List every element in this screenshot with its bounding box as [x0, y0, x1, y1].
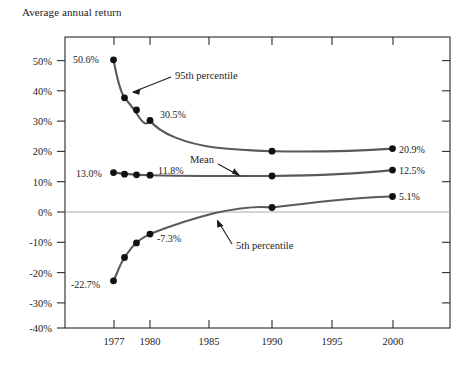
point-label-p5-start: -22.7% [71, 279, 100, 290]
y-axis-ticks-right [442, 61, 450, 303]
point-label-p95-start: 50.6% [73, 54, 99, 65]
data-point [269, 204, 276, 211]
series-points-95th-percentile [110, 56, 396, 154]
ytick-label-n30: -30% [29, 298, 52, 309]
data-point [121, 94, 128, 101]
point-label-p5-1980: -7.3% [157, 233, 181, 244]
xtick-label-1977: 1977 [104, 336, 125, 347]
series-line-mean [114, 170, 393, 176]
ytick-label-0: 0% [38, 207, 52, 218]
annotation-label-mean: Mean [190, 154, 215, 165]
ytick-label-n20: -20% [29, 268, 52, 279]
point-label-p5-end: 5.1% [399, 191, 420, 202]
chart-svg: 50% 40% 30% 20% 10% 0% -10% -20% -30% -4… [0, 0, 476, 377]
point-label-mean-1980: 11.8% [158, 165, 183, 176]
data-point [121, 171, 128, 178]
xtick-label-1985: 1985 [199, 336, 220, 347]
xtick-label-1980: 1980 [140, 336, 161, 347]
y-axis-ticks [57, 61, 65, 328]
data-point [147, 231, 154, 238]
annotation-95th-percentile: 95th percentile [132, 70, 238, 95]
chart-figure: Average annual return [0, 0, 476, 377]
page-title: Average annual return [22, 6, 122, 18]
data-point [389, 193, 396, 200]
data-point [133, 171, 140, 178]
annotation-5th-percentile: 5th percentile [217, 220, 294, 252]
data-point [269, 148, 276, 155]
point-label-mean-end: 12.5% [399, 165, 425, 176]
ytick-label-30: 30% [33, 116, 53, 127]
data-point [269, 173, 276, 180]
series-line-5th-percentile [114, 197, 393, 281]
series-line-95th-percentile [114, 60, 393, 152]
ytick-label-40: 40% [33, 86, 53, 97]
xtick-label-1990: 1990 [262, 336, 283, 347]
point-label-mean-start: 13.0% [76, 168, 102, 179]
annotation-label-5th: 5th percentile [236, 240, 294, 251]
data-point [389, 145, 396, 152]
data-point [147, 117, 154, 124]
point-label-p95-1980: 30.5% [160, 109, 186, 120]
ytick-label-20: 20% [33, 146, 53, 157]
data-point [133, 107, 140, 114]
data-point [121, 254, 128, 261]
point-label-p95-end: 20.9% [399, 144, 425, 155]
data-point [110, 277, 117, 284]
ytick-label-50: 50% [33, 56, 53, 67]
ytick-label-n10: -10% [29, 237, 52, 248]
xtick-label-2000: 2000 [383, 336, 404, 347]
plot-frame [65, 37, 450, 328]
data-point [389, 167, 396, 174]
data-point [147, 172, 154, 179]
x-axis-ticks [114, 320, 393, 328]
ytick-label-10: 10% [33, 177, 53, 188]
data-point [133, 240, 140, 247]
annotation-mean: Mean [190, 154, 241, 176]
x-axis-ticks-top [114, 37, 393, 45]
data-point [110, 169, 117, 176]
xtick-label-1995: 1995 [322, 336, 343, 347]
ytick-label-n40: -40% [29, 323, 52, 334]
data-point [110, 56, 117, 63]
annotation-label-95th: 95th percentile [175, 70, 238, 81]
